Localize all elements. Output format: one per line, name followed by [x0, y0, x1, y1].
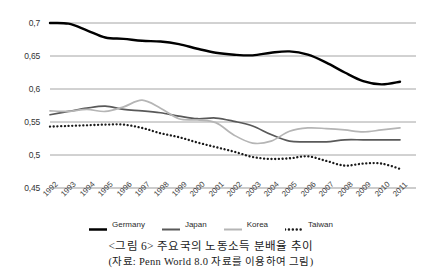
caption-title: <그림 6> 주요국의 노동소득 분배율 추이 — [0, 238, 422, 254]
figure-page: 0,450,50,550,60,650,7 199219931994199519… — [0, 0, 422, 280]
series-line — [50, 23, 400, 84]
legend-swatch-icon — [89, 220, 107, 229]
legend-item: Taiwan — [285, 220, 333, 229]
legend-label: Korea — [247, 220, 268, 229]
legend-label: Germany — [112, 220, 145, 229]
legend-swatch-icon — [162, 220, 180, 229]
legend-label: Taiwan — [308, 220, 333, 229]
y-tick-label: 0,55 — [14, 117, 40, 127]
legend-item: Germany — [89, 220, 145, 229]
line-chart: 0,450,50,550,60,650,7 199219931994199519… — [0, 0, 422, 215]
series-layer — [50, 23, 400, 169]
caption-source: (자료: Penn World 8.0 자료를 이용하여 그림) — [0, 254, 422, 269]
legend-item: Korea — [224, 220, 268, 229]
legend-swatch-icon — [285, 220, 303, 229]
y-tick-label: 0,65 — [14, 51, 40, 61]
legend-item: Japan — [162, 220, 207, 229]
y-tick-label: 0,5 — [14, 150, 40, 160]
y-tick-label: 0,6 — [14, 84, 40, 94]
figure-caption: <그림 6> 주요국의 노동소득 분배율 추이 (자료: Penn World … — [0, 238, 422, 269]
y-tick-label: 0,7 — [14, 18, 40, 28]
y-tick-label: 0,45 — [14, 183, 40, 193]
chart-legend: GermanyJapanKoreaTaiwan — [0, 216, 422, 232]
plot-canvas — [0, 0, 422, 215]
legend-swatch-icon — [224, 220, 242, 229]
legend-label: Japan — [185, 220, 207, 229]
